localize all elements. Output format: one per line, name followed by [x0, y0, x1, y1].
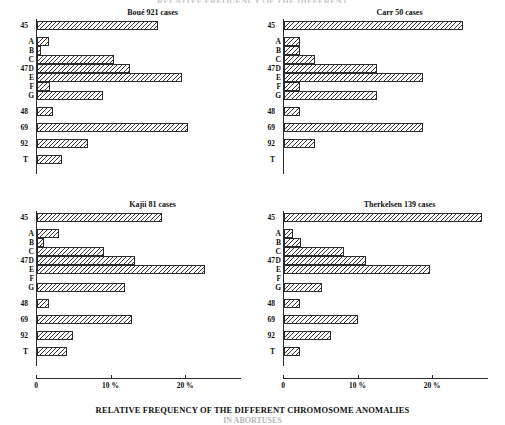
x-tick [358, 375, 359, 379]
row-label-F: F [24, 274, 34, 283]
bar-row [37, 256, 242, 265]
row-label-69: 69 [257, 315, 275, 324]
plot-area-carr: 45486992T47ABCDEFG [283, 19, 488, 184]
bar-row [37, 82, 242, 91]
bar-therkelsen-69 [284, 315, 358, 324]
row-label-G: G [271, 91, 281, 100]
bar-kajii-E [37, 265, 205, 274]
bar-row [284, 315, 489, 324]
bar-kajii-T [37, 347, 67, 356]
bar-row [284, 64, 489, 73]
plot-area-kajii: 45486992T47ABCDEFG010 %20 % [36, 211, 241, 376]
bar-kajii-D [37, 256, 135, 265]
row-label-C: C [24, 247, 34, 256]
bar-row [284, 107, 489, 116]
bar-therkelsen-B [284, 238, 301, 247]
bar-row [284, 256, 489, 265]
row-label-T: T [10, 347, 28, 356]
bar-row [284, 229, 489, 238]
row-label-48: 48 [10, 107, 28, 116]
bar-carr-B [284, 46, 300, 55]
bar-row [284, 82, 489, 91]
x-tick-label: 20 % [424, 381, 441, 390]
row-label-A: A [271, 229, 281, 238]
chart-title-carr: Carr 50 cases [255, 8, 505, 17]
row-label-E: E [271, 73, 281, 82]
bar-row [284, 238, 489, 247]
bar-boue-92 [37, 139, 88, 148]
bar-boue-D [37, 64, 130, 73]
bar-row [284, 347, 489, 356]
row-label-69: 69 [10, 315, 28, 324]
row-label-B: B [271, 46, 281, 55]
bar-row [37, 299, 242, 308]
bar-kajii-G [37, 283, 125, 292]
bar-therkelsen-T [284, 347, 300, 356]
row-label-F: F [24, 82, 34, 91]
bar-row [284, 331, 489, 340]
bar-row [284, 55, 489, 64]
row-label-45: 45 [257, 213, 275, 222]
row-label-G: G [24, 91, 34, 100]
bar-therkelsen-48 [284, 299, 300, 308]
row-label-C: C [24, 55, 34, 64]
x-tick [111, 375, 112, 379]
bar-therkelsen-A [284, 229, 293, 238]
row-label-B: B [24, 46, 34, 55]
bar-row [284, 247, 489, 256]
bar-boue-B [37, 46, 41, 55]
bar-row [37, 37, 242, 46]
bar-row [37, 123, 242, 132]
bar-row [37, 213, 242, 222]
bar-carr-G [284, 91, 377, 100]
bar-boue-A [37, 37, 49, 46]
row-label-45: 45 [10, 21, 28, 30]
bar-row [37, 283, 242, 292]
row-label-48: 48 [257, 107, 275, 116]
bar-row [37, 64, 242, 73]
bar-row [284, 123, 489, 132]
bar-kajii-45 [37, 213, 162, 222]
bar-therkelsen-G [284, 283, 322, 292]
bar-carr-C [284, 55, 315, 64]
plot-area-boue: 45486992T47ABCDEFG [36, 19, 241, 184]
bar-therkelsen-92 [284, 331, 331, 340]
bar-kajii-A [37, 229, 59, 238]
row-label-B: B [24, 238, 34, 247]
row-label-T: T [257, 155, 275, 164]
bar-row [284, 299, 489, 308]
chart-title-boue: Boué 921 cases [8, 8, 269, 17]
row-label-C: C [271, 55, 281, 64]
bar-row [37, 315, 242, 324]
x-tick [432, 375, 433, 379]
figure-caption-line2: IN ABORTUSES [0, 416, 505, 424]
bar-carr-A [284, 37, 300, 46]
row-label-G: G [271, 283, 281, 292]
row-label-69: 69 [257, 123, 275, 132]
row-label-45: 45 [257, 21, 275, 30]
x-axis: 010 %20 % [283, 378, 488, 379]
bar-boue-E [37, 73, 182, 82]
bar-row [37, 265, 242, 274]
bar-kajii-92 [37, 331, 73, 340]
bar-row [37, 21, 242, 30]
bar-row [284, 265, 489, 274]
bar-row [37, 46, 242, 55]
bar-row [284, 139, 489, 148]
bar-row [37, 331, 242, 340]
x-tick [185, 375, 186, 379]
bar-row [37, 73, 242, 82]
row-label-E: E [271, 265, 281, 274]
row-label-92: 92 [10, 139, 28, 148]
x-tick-label: 0 [281, 381, 285, 390]
row-label-48: 48 [257, 299, 275, 308]
bar-row [284, 37, 489, 46]
bar-kajii-C [37, 247, 104, 256]
bar-row [37, 347, 242, 356]
row-label-92: 92 [10, 331, 28, 340]
x-tick [283, 375, 284, 379]
row-label-B: B [271, 238, 281, 247]
bar-boue-69 [37, 123, 188, 132]
bar-row [284, 91, 489, 100]
x-tick-label: 10 % [102, 381, 119, 390]
